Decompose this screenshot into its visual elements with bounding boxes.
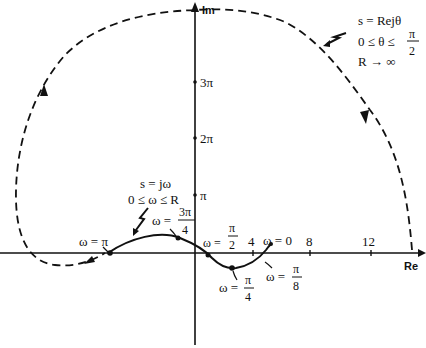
imag-tick-label-3pi: 3π (200, 75, 214, 90)
label-w-3pi4-num: 3π (179, 205, 191, 219)
label-w-pi8-num: π (293, 262, 299, 276)
jw-label-line2: 0 ≤ ω ≤ R (128, 192, 179, 207)
contour-label-frac-num: π (409, 27, 415, 41)
real-tick-label-4: 4 (248, 234, 255, 249)
jw-pointer-icon (136, 208, 148, 230)
contour-arrow-icon-right (360, 110, 369, 124)
point-w-pi2 (206, 253, 211, 258)
jw-label: s = jω 0 ≤ ω ≤ R (128, 176, 179, 207)
imag-tick-label-2pi: 2π (200, 131, 214, 146)
point-w-pi (107, 250, 113, 256)
jw-curve-solid (108, 235, 271, 268)
contour-pointer-head-icon (323, 40, 330, 47)
imag-tick-pi (193, 193, 197, 197)
label-w-pi2-prefix: ω = (203, 236, 221, 250)
real-axis-label: Re (404, 260, 418, 272)
pointer-w-pi4-icon (233, 271, 237, 280)
imag-tick-2pi (193, 136, 197, 140)
label-w-pi8-prefix: ω = (266, 269, 285, 284)
contour-label-line3: R → ∞ (358, 54, 395, 69)
nyquist-diagram: π 2π 3π 4 8 12 Im Re s = Rejθ 0 ≤ θ ≤ π … (0, 0, 426, 348)
label-w-pi2-den: 2 (229, 238, 235, 252)
label-w-pi2-num: π (229, 221, 235, 235)
contour-label-frac-den: 2 (409, 44, 415, 58)
label-w-pi: ω = π (79, 234, 108, 249)
label-w-pi4-prefix: ω = (219, 280, 238, 295)
contour-label: s = Rejθ 0 ≤ θ ≤ π 2 R → ∞ (358, 13, 419, 69)
label-w-pi8-den: 8 (293, 279, 299, 293)
label-w-pi4-den: 4 (245, 290, 251, 304)
pointer-w-pi8-icon (265, 262, 272, 268)
imag-tick-label-pi: π (200, 188, 207, 203)
contour-arrow-icon-bottom (84, 256, 95, 264)
jw-label-line1: s = jω (140, 176, 172, 191)
label-w-0: ω = 0 (263, 233, 292, 248)
imag-tick-3pi (193, 80, 197, 84)
real-tick-label-8: 8 (306, 234, 313, 249)
infinite-contour-dashed (16, 9, 412, 265)
contour-label-line2: 0 ≤ θ ≤ (358, 34, 395, 49)
real-axis-arrow-icon (418, 249, 426, 257)
label-w-3pi4-den: 4 (182, 223, 188, 237)
label-w-3pi4-prefix: ω = (152, 213, 171, 228)
contour-label-line1: s = Rejθ (358, 13, 401, 28)
real-tick-label-12: 12 (362, 234, 375, 249)
point-w-3pi4 (176, 236, 181, 241)
point-w-pi4 (229, 265, 235, 271)
label-w-pi4-num: π (245, 273, 251, 287)
